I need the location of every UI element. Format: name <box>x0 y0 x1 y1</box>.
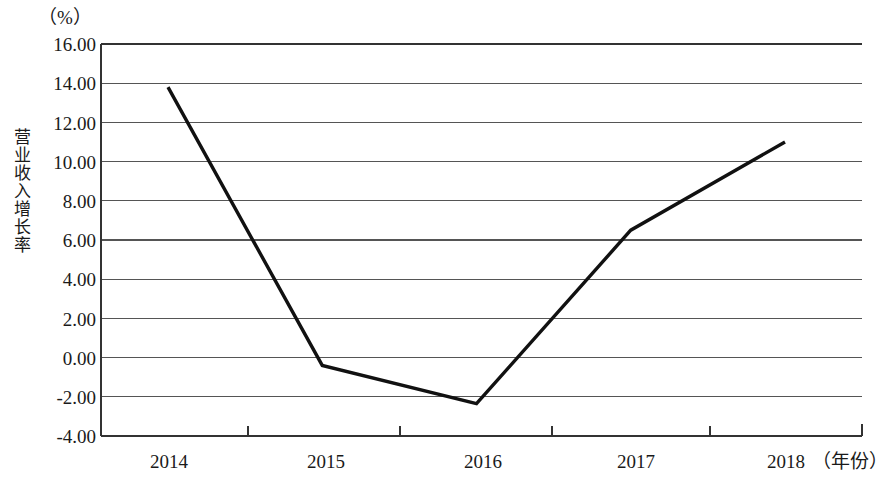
chart-plot-svg <box>0 0 879 478</box>
x-tick-label-2016: 2016 <box>454 452 512 471</box>
data-series-line <box>168 87 785 404</box>
chart-figure: （%） 营业收入增长率 16.00 14.00 12.00 10.00 8.00… <box>0 0 879 478</box>
x-axis-ticks <box>248 426 710 436</box>
x-tick-label-2015: 2015 <box>297 452 355 471</box>
x-tick-label-2014: 2014 <box>140 452 198 471</box>
x-tick-label-2017: 2017 <box>607 452 665 471</box>
x-tick-label-2018: 2018 <box>757 452 815 471</box>
x-axis-title: （年份） <box>812 452 879 471</box>
gridlines <box>101 83 862 397</box>
